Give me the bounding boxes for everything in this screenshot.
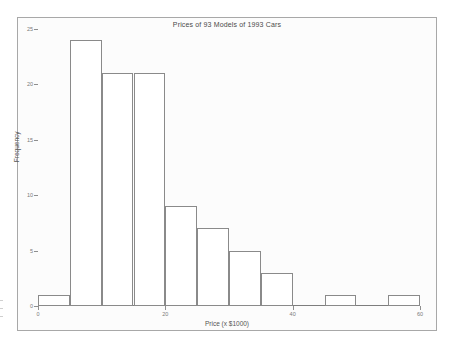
x-tick-label: 20 [162, 311, 168, 317]
histogram-bar [197, 228, 229, 306]
y-tick-mark [34, 251, 38, 252]
x-tick-label: 0 [36, 311, 39, 317]
x-tick-mark [165, 306, 166, 310]
y-tick-mark [34, 195, 38, 196]
histogram-bar [229, 251, 261, 306]
histogram-bar [134, 73, 166, 306]
x-tick-label: 60 [417, 311, 423, 317]
plot-area: 0510152025 0204060 [38, 29, 420, 306]
chart-title: Prices of 93 Models of 1993 Cars [18, 21, 436, 28]
y-tick-mark [34, 29, 38, 30]
x-tick-mark [38, 306, 39, 310]
y-tick-label: 20 [27, 81, 33, 87]
x-tick-mark [420, 306, 421, 310]
x-tick-mark [293, 306, 294, 310]
y-tick-label: 15 [27, 137, 33, 143]
histogram-bar [261, 273, 293, 306]
scan-artifact [0, 316, 3, 317]
y-tick-label: 0 [30, 303, 33, 309]
histogram-bar [325, 295, 357, 306]
y-axis-title: Frequency [13, 131, 20, 162]
x-axis-title: Price (x $1000) [18, 320, 436, 327]
histogram-bar [102, 73, 134, 306]
y-tick-mark [34, 140, 38, 141]
y-tick-label: 5 [30, 248, 33, 254]
plot-device-frame: Prices of 93 Models of 1993 Cars 0510152… [17, 17, 437, 331]
x-tick-label: 40 [290, 311, 296, 317]
histogram-bar [165, 206, 197, 306]
histogram-bar [70, 40, 102, 306]
scan-artifact [0, 300, 3, 301]
histogram-bar [38, 295, 70, 306]
y-tick-label: 25 [27, 26, 33, 32]
scan-artifact [0, 308, 3, 309]
y-tick-label: 10 [27, 192, 33, 198]
histogram-page: Prices of 93 Models of 1993 Cars 0510152… [0, 0, 457, 357]
histogram-bar [388, 295, 420, 306]
y-tick-mark [34, 84, 38, 85]
